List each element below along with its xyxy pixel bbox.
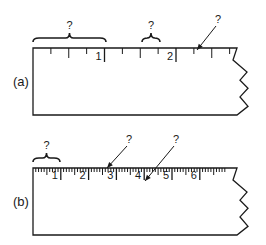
- question-arrow: ?: [197, 13, 221, 50]
- figure-a-quarter-inch-ruler: (a)12???: [13, 13, 248, 115]
- question-arrow: ?: [107, 133, 132, 168]
- question-brace: ?: [33, 139, 60, 162]
- question-mark: ?: [148, 19, 154, 31]
- brace-icon: [142, 33, 160, 42]
- ruler-number-label: 2: [167, 50, 173, 62]
- ruler-reading-diagram: (a)12??? (b)123456???: [0, 0, 266, 245]
- figure-label: (a): [13, 74, 29, 89]
- question-mark: ?: [215, 13, 221, 25]
- question-mark: ?: [173, 133, 179, 145]
- ruler-number-label: 5: [163, 169, 169, 181]
- ruler-number-label: 3: [107, 169, 113, 181]
- brace-icon: [33, 33, 106, 42]
- question-mark: ?: [126, 133, 132, 145]
- figure-label: (b): [13, 194, 29, 209]
- ruler-number-label: 2: [79, 169, 85, 181]
- question-brace: ?: [33, 19, 106, 42]
- ruler-ticks: 12: [51, 48, 230, 62]
- arrow-icon: [145, 146, 174, 181]
- ruler-number-label: 1: [95, 50, 101, 62]
- ruler-ticks: 123456: [36, 168, 225, 181]
- ruler-number-label: 4: [135, 169, 141, 181]
- ruler-number-label: 6: [191, 169, 197, 181]
- question-mark: ?: [66, 19, 72, 31]
- question-brace: ?: [142, 19, 160, 42]
- ruler-outline: [33, 48, 248, 115]
- ruler-number-label: 1: [52, 169, 58, 181]
- question-mark: ?: [43, 139, 49, 151]
- brace-icon: [33, 153, 60, 162]
- figure-b-tenth-unit-ruler: (b)123456???: [13, 133, 248, 235]
